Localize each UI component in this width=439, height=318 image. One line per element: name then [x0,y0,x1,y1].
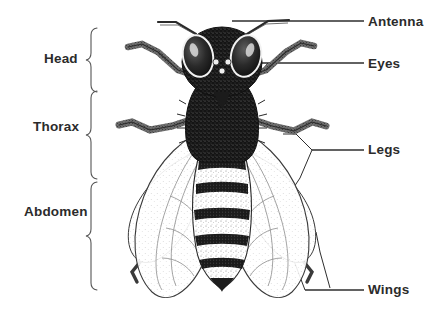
label-head: Head [44,52,78,66]
label-wings: Wings [368,283,409,297]
label-eyes: Eyes [368,57,400,71]
anatomy-brackets [86,28,97,290]
leader-wings-hind [316,232,330,288]
abdomen [193,152,252,292]
bee-anatomy-figure: Head Thorax Abdomen Antenna Eyes Legs Wi… [0,0,439,318]
brace-thorax [86,91,97,179]
label-legs: Legs [368,143,400,157]
leader-legs-upper [283,134,312,150]
bee-illustration [0,0,439,318]
label-thorax: Thorax [33,120,79,134]
label-antenna: Antenna [368,15,423,29]
bee-body [119,20,326,298]
brace-abdomen [86,182,97,290]
label-abdomen: Abdomen [24,205,88,219]
brace-head [86,28,97,92]
